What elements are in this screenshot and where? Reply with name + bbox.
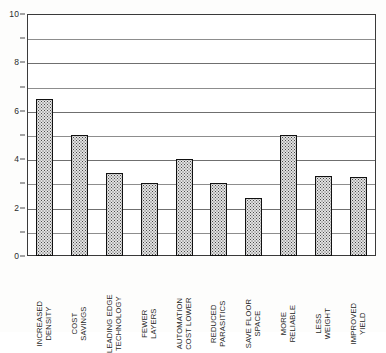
bar: [210, 183, 227, 256]
bar: [245, 198, 262, 256]
gridline-6: [28, 112, 375, 113]
gridline-7: [28, 88, 375, 89]
x-axis-label: SAVE FLOORSPACE: [236, 258, 271, 332]
x-axis-label-text: AUTOMATIONCOST LOWER: [175, 297, 192, 349]
x-axis-label: REDUCEDPARASITICS: [202, 258, 237, 332]
y-tick-mark-3: [20, 183, 25, 184]
x-axis-label: COSTSAVINGS: [62, 258, 97, 332]
gridline-9: [28, 39, 375, 40]
bar: [106, 173, 123, 256]
y-tick-mark-2: [20, 207, 25, 208]
y-tick-mark-8: [20, 62, 25, 63]
x-axis-label-text: IMPROVEDYIELD: [350, 303, 367, 345]
x-axis-label-text: COSTSAVINGS: [71, 306, 88, 340]
x-axis-label-text: REDUCEDPARASITICS: [210, 300, 227, 346]
y-tick-label-4: 4: [14, 154, 19, 164]
bar: [71, 135, 88, 256]
x-axis-label: INCREASEDDENSITY: [27, 258, 62, 332]
x-axis-label: AUTOMATIONCOST LOWER: [167, 258, 202, 332]
x-axis-label-text: MORERELIABLE: [280, 305, 297, 343]
y-tick-label-2: 2: [14, 203, 19, 213]
x-axis-label-text: LESSWEIGHT: [315, 308, 332, 339]
y-tick-label-10: 10: [9, 9, 19, 19]
y-axis: 0246810: [0, 14, 25, 256]
y-tick-mark-1: [20, 231, 25, 232]
x-axis-label: FEWERLAYERS: [132, 258, 167, 332]
bar: [315, 176, 332, 256]
x-axis-label-text: SAVE FLOORSPACE: [245, 299, 262, 348]
x-axis-label: MORERELIABLE: [271, 258, 306, 332]
y-tick-mark-9: [20, 38, 25, 39]
bar: [141, 183, 158, 256]
bar: [36, 99, 53, 256]
x-axis-label: LEADING EDGETECHNOLOGY: [97, 258, 132, 332]
y-tick-mark-7: [20, 86, 25, 87]
x-axis-label-text: LEADING EDGETECHNOLOGY: [106, 294, 123, 353]
bar: [176, 159, 193, 256]
y-tick-label-0: 0: [14, 251, 19, 261]
bar: [350, 177, 367, 256]
x-axis-label: LESSWEIGHT: [306, 258, 341, 332]
x-axis-label: IMPROVEDYIELD: [341, 258, 376, 332]
y-tick-mark-4: [20, 159, 25, 160]
y-tick-label-8: 8: [14, 57, 19, 67]
x-axis-label-text: INCREASEDDENSITY: [36, 301, 53, 347]
x-axis: INCREASEDDENSITYCOSTSAVINGSLEADING EDGET…: [27, 258, 376, 332]
y-tick-mark-10: [20, 14, 25, 15]
y-tick-mark-6: [20, 110, 25, 111]
x-axis-label-text: FEWERLAYERS: [141, 308, 158, 338]
y-tick-label-6: 6: [14, 106, 19, 116]
y-tick-mark-5: [20, 135, 25, 136]
gridline-8: [28, 63, 375, 64]
bar: [280, 135, 297, 256]
y-tick-mark-0: [20, 256, 25, 257]
